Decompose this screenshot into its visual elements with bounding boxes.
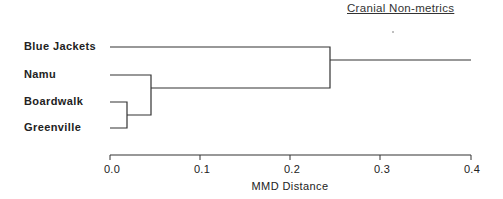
x-tick-4: 0.4 [464, 163, 480, 175]
x-tick-3: 0.3 [374, 163, 390, 175]
x-tick-0: 0.0 [104, 163, 120, 175]
x-axis-ticks [110, 155, 471, 160]
x-tick-2: 0.2 [284, 163, 300, 175]
artifact-dot [392, 31, 394, 33]
branch-root-merge [110, 47, 330, 88]
x-axis-label: MMD Distance [252, 180, 329, 192]
x-tick-1: 0.1 [194, 163, 210, 175]
branch-namu-cluster [110, 75, 151, 115]
branch-boardwalk-greenville [110, 102, 127, 128]
dendrogram-plot [0, 0, 503, 199]
